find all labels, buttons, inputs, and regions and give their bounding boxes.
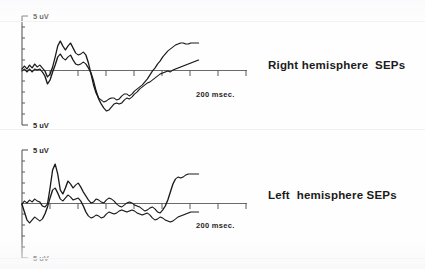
chart-panel-right-hemisphere: 5 uV 5 uV 200 msec.: [0, 0, 260, 136]
panel-caption-left-hemisphere: Left hemisphere SEPs: [268, 189, 397, 201]
waveform-trace-1-right: [22, 41, 199, 102]
y-axis-bottom-label-left: 5 uV: [33, 254, 49, 263]
panel-caption-right-hemisphere: Right hemisphere SEPs: [268, 59, 405, 71]
x-axis-left-hemisphere: [22, 203, 247, 209]
y-axis-top-label-left: 5 uV: [33, 146, 49, 155]
sep-figure: 5 uV 5 uV 200 msec.: [0, 0, 425, 269]
x-axis-right-hemisphere: [22, 70, 247, 76]
y-axis-top-label-right: 5 uV: [33, 12, 49, 21]
time-scale-label-right: 200 msec.: [196, 90, 235, 99]
chart-panel-left-hemisphere: 5 uV 5 uV 200 msec.: [0, 134, 260, 269]
y-axis-bottom-label-right: 5 uV: [33, 121, 49, 130]
waveform-trace-2-right: [22, 54, 199, 111]
waveform-trace-2-left: [22, 188, 199, 223]
time-scale-label-left: 200 msec.: [196, 221, 235, 230]
chart-svg-right-hemisphere: 5 uV 5 uV 200 msec.: [0, 0, 260, 136]
chart-svg-left-hemisphere: 5 uV 5 uV 200 msec.: [0, 134, 260, 269]
